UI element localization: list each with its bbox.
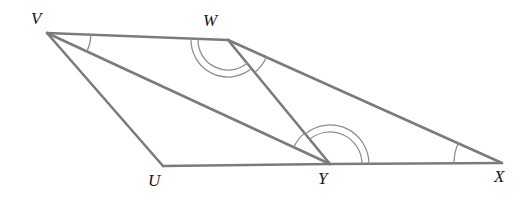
segment-wy [228,40,330,164]
segments-group [47,33,502,166]
segment-wx [228,40,502,163]
vertex-label-u: U [148,172,160,189]
segment-yx [330,163,502,164]
vertex-label-y: Y [318,170,327,187]
geometry-canvas [0,0,532,203]
segment-vu [47,33,163,166]
angle-mark-ywx-arc-1 [255,57,267,72]
segment-vy [47,33,330,164]
angle-mark-wyv [294,133,305,147]
angle-mark-x-arc-1 [454,143,458,163]
vertex-label-w: W [203,12,217,29]
angle-mark-wyv-arc-1 [294,133,305,147]
geometry-diagram: VWUYX [0,0,532,203]
vertex-label-v: V [31,10,41,27]
angle-mark-ywx [255,57,267,72]
segment-uy [163,164,330,166]
angle-mark-v [87,35,91,52]
angle-mark-x [454,143,458,163]
vertex-label-x: X [494,168,504,185]
angle-mark-v-arc-1 [87,35,91,52]
segment-vw [47,33,228,40]
